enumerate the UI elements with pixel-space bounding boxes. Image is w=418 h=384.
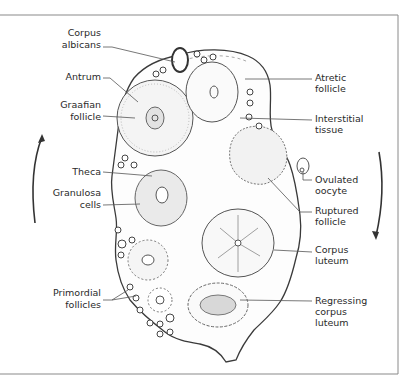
label-graafian-follicle: Graafian follicle [60,99,101,122]
svg-text:Theca: Theca [71,166,101,177]
label-interstitial-tissue: Interstitial tissue [315,113,363,135]
svg-text:albicans: albicans [62,39,101,50]
svg-text:Ovulated: Ovulated [315,174,358,185]
svg-text:Corpus: Corpus [68,27,101,38]
svg-text:luteum: luteum [315,255,349,266]
svg-text:Regressing: Regressing [315,295,367,306]
secondary-follicle [135,170,187,226]
label-primordial-follicles: Primordial follicles [53,287,101,310]
cycle-arrow-left-icon [33,134,45,223]
svg-text:follicles: follicles [65,299,101,310]
svg-text:corpus: corpus [315,306,347,317]
svg-text:Corpus: Corpus [315,244,348,255]
label-corpus-albicans: Corpus albicans [62,27,101,50]
svg-text:Antrum: Antrum [66,71,101,82]
svg-text:Atretic: Atretic [315,72,346,83]
ovary-diagram: Corpus albicans Antrum Graafian follicle… [0,0,418,384]
label-ruptured-follicle: Ruptured follicle [315,205,359,227]
svg-text:follicle: follicle [315,216,346,227]
svg-text:Interstitial: Interstitial [315,113,363,124]
atretic-follicle [186,62,238,122]
label-ovulated-oocyte: Ovulated oocyte [315,174,358,196]
svg-text:Graafian: Graafian [60,99,101,110]
label-granulosa-cells: Granulosa cells [53,187,101,210]
svg-text:follicle: follicle [315,83,346,94]
label-regressing-corpus-luteum: Regressing corpus luteum [315,295,367,328]
label-antrum: Antrum [66,71,101,82]
corpus-albicans [172,48,188,72]
corpus-luteum [202,209,274,277]
svg-text:cells: cells [80,199,101,210]
cycle-arrow-right-icon [372,152,382,240]
svg-text:Ruptured: Ruptured [315,205,359,216]
svg-text:follicle: follicle [70,111,101,122]
svg-text:Primordial: Primordial [53,287,101,298]
ovulated-oocyte [297,158,309,174]
svg-text:Granulosa: Granulosa [53,187,101,198]
svg-text:luteum: luteum [315,317,349,328]
svg-text:tissue: tissue [315,124,343,135]
ruptured-follicle [230,126,287,184]
graafian-follicle [117,80,193,156]
regressing-corpus-luteum [188,283,248,327]
svg-text:oocyte: oocyte [315,185,347,196]
label-atretic-follicle: Atretic follicle [315,72,346,94]
label-theca: Theca [71,166,101,177]
label-corpus-luteum: Corpus luteum [315,244,349,266]
